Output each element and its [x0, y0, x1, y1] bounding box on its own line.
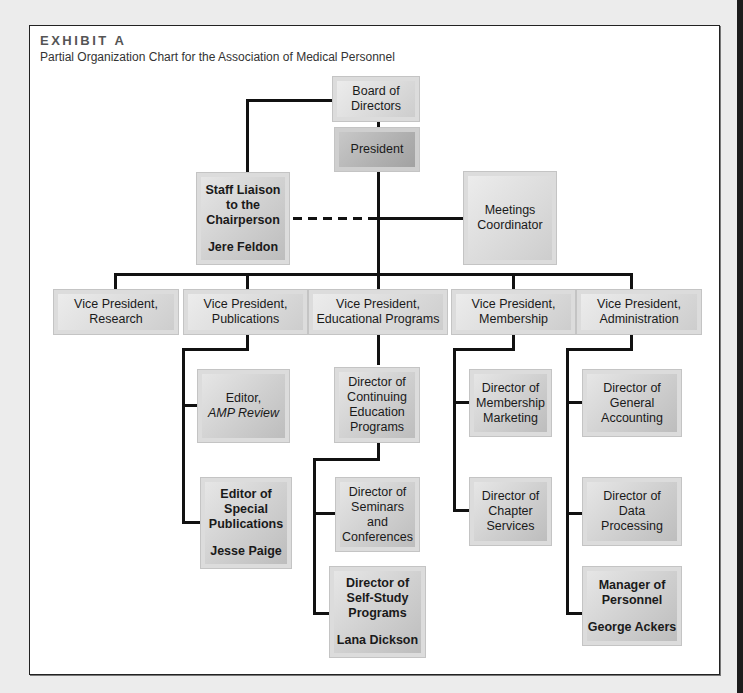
box-text: Director of [482, 489, 540, 504]
vp-educational-programs-box: Vice President, Educational Programs [309, 290, 447, 334]
connector-line [453, 401, 471, 404]
box-text: Directors [351, 99, 401, 114]
box-text: General [610, 396, 654, 411]
director-chapter-services-box: Director of Chapter Services [470, 478, 551, 545]
president-box: President [335, 128, 419, 171]
box-text: AMP Review [208, 406, 279, 421]
box-text: Director of [349, 485, 407, 500]
exhibit-label: EXHIBIT A [40, 33, 126, 48]
connector-line [566, 612, 584, 615]
exhibit-title: Partial Organization Chart for the Assoc… [40, 50, 395, 64]
connector-line [566, 512, 584, 515]
box-text: Special [224, 502, 268, 517]
box-text: Manager of [599, 578, 666, 593]
box-text: Meetings [485, 203, 536, 218]
connector-line [566, 348, 569, 615]
connector-line [453, 509, 471, 512]
board-of-directors-box: Board of Directors [333, 77, 419, 121]
box-text: Conferences [342, 530, 413, 545]
page-edge [737, 0, 743, 693]
box-text: Publications [212, 312, 279, 327]
person-name: Lana Dickson [337, 633, 418, 648]
connector-line [246, 273, 249, 291]
box-text: Chapter [488, 504, 532, 519]
vp-research-box: Vice President, Research [54, 290, 178, 334]
box-text: Director of [603, 381, 661, 396]
connector-line [512, 273, 515, 291]
box-text: Seminars [351, 500, 404, 515]
box-text: Administration [599, 312, 678, 327]
vp-membership-box: Vice President, Membership [452, 290, 575, 334]
box-text: Programs [350, 420, 404, 435]
box-text: and [367, 515, 388, 530]
connector-line [182, 348, 185, 524]
box-text: Board of [352, 84, 399, 99]
box-text: Publications [209, 517, 283, 532]
box-text: Chairperson [206, 213, 280, 228]
box-text: Director of [348, 375, 406, 390]
editor-amp-review-box: Editor, AMP Review [198, 370, 289, 442]
box-text: Services [487, 519, 535, 534]
box-text: Personnel [602, 593, 662, 608]
staff-liaison-box: Staff Liaison to the Chairperson Jere Fe… [197, 173, 289, 264]
box-text: Education [349, 405, 405, 420]
person-name: George Ackers [588, 620, 676, 635]
box-text: Research [89, 312, 143, 327]
editor-special-publications-box: Editor of Special Publications Jesse Pai… [201, 478, 291, 568]
connector-line [377, 170, 380, 365]
box-text: Director of [482, 381, 540, 396]
box-text: Coordinator [477, 218, 542, 233]
connector-line [566, 348, 633, 351]
box-text: Processing [601, 519, 663, 534]
vp-publications-box: Vice President, Publications [184, 290, 307, 334]
connector-line [453, 348, 515, 351]
box-text: Educational Programs [317, 312, 440, 327]
director-continuing-education-box: Director of Continuing Education Program… [335, 368, 419, 442]
connector-line [182, 348, 249, 351]
box-text: Membership [476, 396, 545, 411]
box-text: Accounting [601, 411, 663, 426]
connector-line [630, 273, 633, 291]
box-text: Staff Liaison [205, 183, 280, 198]
box-text: Vice President, [204, 297, 288, 312]
box-text: Marketing [483, 411, 538, 426]
box-text: Vice President, [74, 297, 158, 312]
director-seminars-conferences-box: Director of Seminars and Conferences [336, 478, 419, 551]
connector-line [313, 458, 316, 615]
connector-line [182, 521, 202, 524]
box-text: Programs [348, 606, 406, 621]
box-text: to the [226, 198, 260, 213]
box-text: Vice President, [336, 297, 420, 312]
connector-line [246, 99, 334, 102]
director-self-study-box: Director of Self-Study Programs Lana Dic… [330, 567, 425, 657]
meetings-coordinator-box: Meetings Coordinator [464, 172, 556, 264]
box-text: Editor, [226, 391, 261, 406]
vp-administration-box: Vice President, Administration [577, 290, 701, 334]
connector-line [114, 273, 633, 276]
dotted-reporting-line [293, 217, 377, 220]
person-name: Jere Feldon [208, 240, 278, 255]
box-text: Editor of [220, 487, 271, 502]
connector-line [313, 458, 380, 461]
connector-line [246, 99, 249, 174]
director-data-processing-box: Director of Data Processing [583, 478, 681, 545]
box-text: Continuing [347, 390, 407, 405]
box-text: Vice President, [597, 297, 681, 312]
connector-line [453, 348, 456, 512]
box-text: Self-Study [347, 591, 409, 606]
connector-line [114, 273, 117, 291]
manager-personnel-box: Manager of Personnel George Ackers [583, 567, 681, 645]
connector-line [182, 404, 199, 407]
connector-line [377, 217, 465, 220]
box-text: President [351, 142, 404, 157]
director-general-accounting-box: Director of General Accounting [583, 370, 681, 436]
person-name: Jesse Paige [210, 544, 282, 559]
connector-line [566, 401, 584, 404]
box-text: Membership [479, 312, 548, 327]
connector-line [313, 512, 337, 515]
connector-line [313, 612, 331, 615]
box-text: Director of [346, 576, 409, 591]
director-membership-marketing-box: Director of Membership Marketing [470, 370, 551, 436]
box-text: Vice President, [472, 297, 556, 312]
box-text: Data [619, 504, 645, 519]
